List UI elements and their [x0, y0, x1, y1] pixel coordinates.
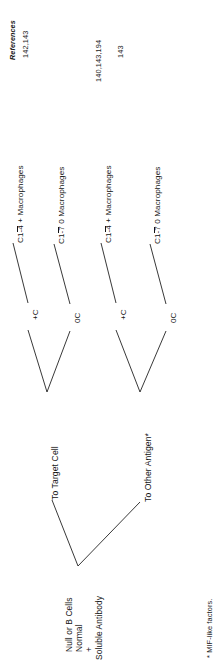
node-target-zero-c: 0C: [74, 312, 82, 323]
overline-bar: [105, 226, 106, 232]
root-line-null-or-b-cells: Null or B Cells: [65, 597, 73, 652]
reference-value-3: 140,143,194: [95, 40, 102, 82]
leaf-c17-overline-group-2: -7: [154, 226, 162, 233]
edge-root-to-other-antigen: [78, 502, 140, 566]
leaf-c14-overline-group-2: -4: [105, 225, 113, 232]
overline-bar: [58, 227, 59, 233]
edge-target-to-plus-c: [28, 330, 47, 392]
overline-bar: [17, 226, 18, 232]
edge-antigen-to-zero-c: [140, 331, 166, 392]
edge-plus-c-to-c14-2: [101, 243, 116, 303]
node-antigen-zero-c: 0C: [170, 312, 178, 323]
leaf-c17-macrophages-2: C1-7 0 Macrophages: [154, 167, 162, 244]
node-antigen-plus-c: +C: [120, 309, 128, 320]
figure-canvas: References 142,143 140,143,194 143 C1-4 …: [0, 0, 216, 664]
reference-value-4: 143: [117, 45, 124, 58]
leaf-c17-suffix-2: 0 Macrophages: [153, 167, 162, 226]
leaf-c14-prefix: C1: [16, 232, 25, 243]
edge-zero-c-to-c17-2: [150, 244, 166, 304]
leaf-c14-suffix: + Macrophages: [16, 165, 25, 225]
leaf-c14-macrophages-2: C1-4 + Macrophages: [105, 165, 113, 243]
edge-plus-c-to-c14: [13, 243, 28, 303]
leaf-c17-prefix-2: C1: [153, 233, 162, 244]
root-line-plus: +: [85, 647, 93, 652]
edge-target-to-zero-c: [47, 331, 70, 392]
overline-bar: [154, 227, 155, 233]
leaf-c17-macrophages: C1-7 0 Macrophages: [58, 167, 66, 244]
leaf-c17-overline-group: -7: [58, 226, 66, 233]
leaf-c17-suffix: 0 Macrophages: [57, 167, 66, 226]
root-line-normal: Normal: [75, 624, 83, 652]
node-target-plus-c: +C: [32, 309, 40, 320]
edge-antigen-to-plus-c: [116, 330, 140, 392]
edge-zero-c-to-c17: [54, 244, 70, 304]
edge-root-to-target-cell: [52, 500, 78, 566]
footnote-mif-like-factors: * MIF-like factors.: [206, 599, 213, 658]
references-header: References: [9, 20, 16, 60]
leaf-c17-prefix: C1: [57, 233, 66, 244]
leaf-c14-suffix-2: + Macrophages: [104, 165, 113, 225]
leaf-c14-macrophages: C1-4 + Macrophages: [17, 165, 25, 243]
tree-edges: [0, 0, 216, 664]
branch-to-other-antigen: To Other Antigen*: [144, 433, 153, 502]
branch-to-target-cell: To Target Cell: [51, 446, 60, 500]
leaf-c14-overline-group: -4: [17, 225, 25, 232]
reference-value-1: 142,143: [22, 31, 29, 58]
leaf-c14-prefix-2: C1: [104, 232, 113, 243]
root-line-soluble-antibody: Soluble Antibody: [95, 596, 103, 660]
